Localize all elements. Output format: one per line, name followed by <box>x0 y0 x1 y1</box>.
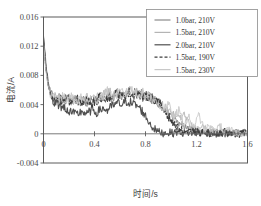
y-tick-label: 0 <box>34 130 38 139</box>
legend-label: 2.0bar, 210V <box>176 41 216 50</box>
y-tick-label: 0.012 <box>20 42 39 51</box>
chart-legend: 1.0bar, 210V1.5bar, 210V2.0bar, 210V1.5b… <box>147 10 258 77</box>
legend-label: 1.0bar, 210V <box>176 16 216 25</box>
x-tick-label: 0.4 <box>89 140 100 149</box>
y-tick-label: -0.004 <box>17 159 39 168</box>
x-tick-label: 1.6 <box>242 140 252 149</box>
x-axis-title: 时间/s <box>133 188 158 199</box>
current-vs-time-chart: -0.00400.0040.0080.0120.01600.40.81.21.6… <box>0 0 261 206</box>
x-tick-label: 0.8 <box>140 140 150 149</box>
x-tick-label: 1.2 <box>191 140 201 149</box>
chart-canvas: -0.00400.0040.0080.0120.01600.40.81.21.6… <box>0 0 261 206</box>
y-tick-label: 0.016 <box>20 13 39 22</box>
x-tick-label: 0 <box>41 140 45 149</box>
y-axis-title: 电流/A <box>5 77 16 103</box>
legend-label: 1.5bar, 210V <box>176 28 216 37</box>
legend-label: 1.5bar, 230V <box>176 66 216 75</box>
y-tick-label: 0.004 <box>20 101 40 110</box>
y-tick-label: 0.008 <box>20 71 39 80</box>
legend-label: 1.5bar, 190V <box>176 53 216 62</box>
